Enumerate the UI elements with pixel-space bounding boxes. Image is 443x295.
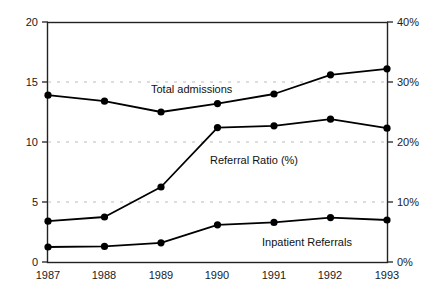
y-left-tick-10: 10: [4, 137, 38, 148]
data-point: [101, 213, 108, 220]
data-point: [214, 100, 221, 107]
chart-canvas: [0, 0, 443, 295]
data-point: [270, 219, 277, 226]
x-tick-1991: 1991: [254, 270, 294, 281]
data-point: [44, 243, 51, 250]
x-tick-1988: 1988: [84, 270, 124, 281]
x-tick-1987: 1987: [28, 270, 68, 281]
data-point: [383, 65, 390, 72]
data-point: [270, 90, 277, 97]
data-point: [383, 125, 390, 132]
x-tick-1989: 1989: [141, 270, 181, 281]
data-point: [327, 116, 334, 123]
series-label-referral-ratio: Referral Ratio (%): [210, 155, 298, 166]
data-point: [327, 71, 334, 78]
data-point: [214, 221, 221, 228]
x-tick-1992: 1992: [310, 270, 350, 281]
data-point: [157, 239, 164, 246]
y-right-tick-40: 40%: [397, 17, 437, 28]
data-point: [214, 124, 221, 131]
data-point: [270, 122, 277, 129]
series-label-total-admissions: Total admissions: [151, 84, 232, 95]
x-tick-1990: 1990: [197, 270, 237, 281]
y-left-tick-15: 15: [4, 77, 38, 88]
y-right-tick-20: 20%: [397, 137, 437, 148]
y-left-tick-20: 20: [4, 17, 38, 28]
data-point: [101, 98, 108, 105]
data-point: [101, 243, 108, 250]
y-left-tick-5: 5: [4, 197, 38, 208]
x-tick-1993: 1993: [367, 270, 407, 281]
data-point: [44, 218, 51, 225]
data-point: [383, 216, 390, 223]
data-point: [44, 92, 51, 99]
chart-container: 20 15 10 5 0 40% 30% 20% 10% 0% 1987 198…: [0, 0, 443, 295]
data-point: [157, 108, 164, 115]
y-right-tick-10: 10%: [397, 197, 437, 208]
series-label-inpatient-referrals: Inpatient Referrals: [262, 237, 352, 248]
y-right-tick-30: 30%: [397, 77, 437, 88]
data-point: [327, 214, 334, 221]
y-right-tick-0: 0%: [397, 257, 437, 268]
y-left-tick-0: 0: [4, 257, 38, 268]
data-point: [157, 183, 164, 190]
